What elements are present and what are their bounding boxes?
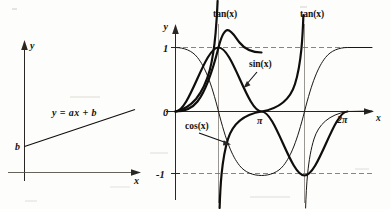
right-x-axis-label: x [375, 113, 381, 123]
y-tick-label-one: 1 [163, 43, 168, 54]
y-intercept-label: b [15, 141, 20, 152]
y-axis-arrow-icon-right [172, 24, 179, 34]
tan-label-2: tan(x) [300, 9, 324, 20]
right-y-axis-label: y [163, 21, 169, 32]
trigonometric-functions-plot: y x 1 0 -1 π 2π sin(x) cos(x) tan(x) [156, 1, 381, 208]
cos-label: cos(x) [185, 121, 209, 132]
figure-canvas: y x b y = ax + b [0, 0, 390, 209]
y-tick-label-negative-one: -1 [156, 169, 165, 180]
sin-callout: sin(x) [244, 59, 272, 88]
linear-equation-label: y = ax + b [51, 107, 97, 118]
x-tick-label-pi: π [257, 115, 263, 126]
y-axis-left [21, 40, 28, 181]
x-axis-left [8, 169, 141, 176]
y-tick-label-zero: 0 [163, 107, 169, 118]
cos-callout: cos(x) [185, 121, 231, 146]
left-x-axis-label: x [133, 175, 139, 186]
x-tick-label-two-pi: 2π [336, 114, 348, 125]
sin-label: sin(x) [249, 59, 272, 70]
y-axis-arrow-icon [21, 40, 28, 50]
figure-svg: y x b y = ax + b [0, 0, 390, 209]
left-y-axis-label: y [29, 40, 35, 51]
linear-function-plot: y x b y = ax + b [8, 40, 141, 187]
tan-curve-branch-3 [306, 111, 372, 208]
tan-label-1: tan(x) [213, 9, 237, 20]
